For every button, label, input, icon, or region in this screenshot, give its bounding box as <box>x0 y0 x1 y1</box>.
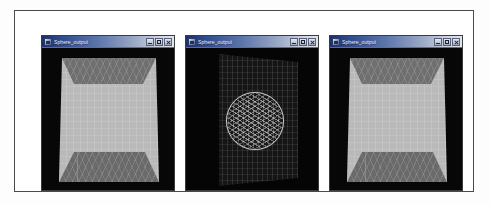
window-3-viewport[interactable] <box>330 47 462 191</box>
box-ceiling-face <box>59 58 159 84</box>
render-scene-shaded-box <box>330 48 462 191</box>
box-ceiling-face <box>347 58 447 84</box>
app-window-icon <box>44 38 52 46</box>
box-floor-face <box>59 152 159 182</box>
render-scene-wireframe-sphere <box>186 48 318 191</box>
window-3-title: Sphere_output <box>342 39 376 45</box>
minimize-button[interactable] <box>290 38 298 46</box>
box-floor-face <box>347 152 447 182</box>
window-3-controls <box>434 38 460 46</box>
maximize-button[interactable] <box>155 38 163 46</box>
close-button[interactable] <box>452 38 460 46</box>
window-1-titlebar[interactable]: Sphere_output <box>42 36 174 47</box>
window-1-viewport[interactable] <box>42 47 174 191</box>
window-2-viewport[interactable] <box>186 47 318 191</box>
maximize-button[interactable] <box>443 38 451 46</box>
minimize-button[interactable] <box>434 38 442 46</box>
window-3-titlebar[interactable]: Sphere_output <box>330 36 462 47</box>
close-button[interactable] <box>308 38 316 46</box>
app-window-icon <box>188 38 196 46</box>
window-2-controls <box>290 38 316 46</box>
perspective-box <box>59 58 159 182</box>
render-scene-shaded-box <box>42 48 174 191</box>
window-2-title: Sphere_output <box>198 39 232 45</box>
window-2-titlebar[interactable]: Sphere_output <box>186 36 318 47</box>
page-root: Sphere_output <box>0 0 490 204</box>
window-1-title: Sphere_output <box>54 39 88 45</box>
figure-frame: Sphere_output <box>14 10 474 192</box>
wireframe-sphere <box>226 92 284 150</box>
close-button[interactable] <box>164 38 172 46</box>
perspective-box <box>347 58 447 182</box>
window-2[interactable]: Sphere_output <box>185 35 319 191</box>
maximize-button[interactable] <box>299 38 307 46</box>
window-3[interactable]: Sphere_output <box>329 35 463 191</box>
window-1[interactable]: Sphere_output <box>41 35 175 191</box>
minimize-button[interactable] <box>146 38 154 46</box>
window-1-controls <box>146 38 172 46</box>
app-window-icon <box>332 38 340 46</box>
